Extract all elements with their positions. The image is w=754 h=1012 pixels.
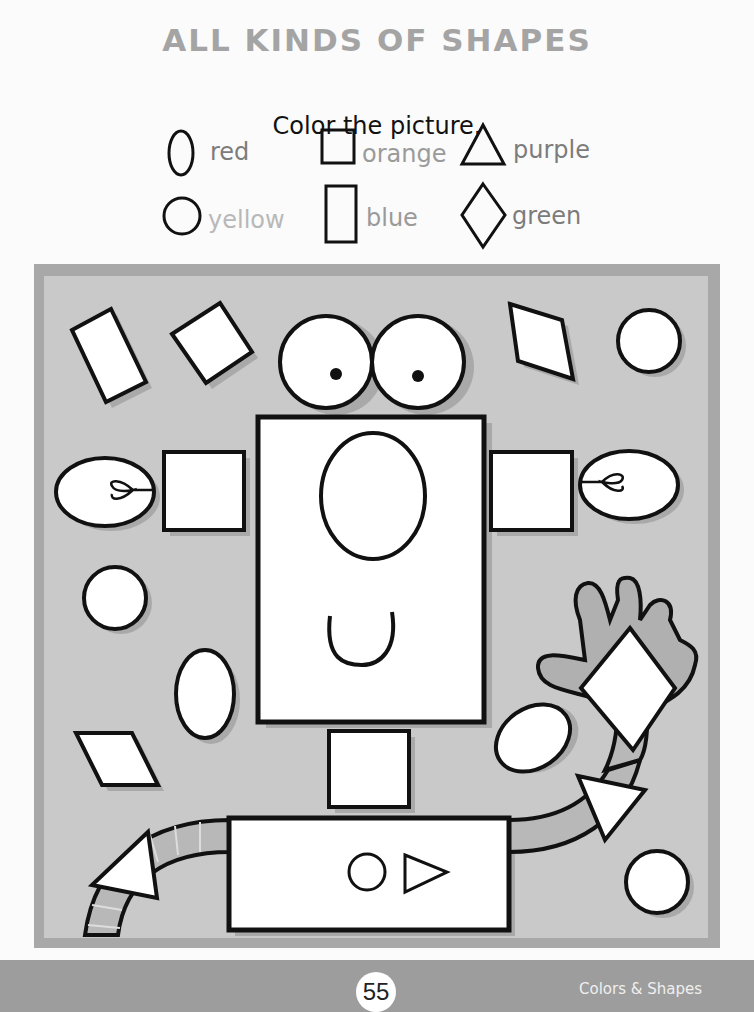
right-pupil: [412, 370, 424, 382]
left-neck-square: [164, 452, 244, 530]
right-ear-oval: [580, 451, 678, 519]
oval-left: [176, 650, 234, 738]
robot-head-rectangle: [258, 417, 484, 722]
page-number: 55: [356, 972, 396, 1012]
circle-bottom-right: [626, 851, 688, 913]
neck-square: [329, 731, 409, 807]
body-circle: [349, 854, 385, 890]
circle-left: [84, 567, 146, 629]
left-eye-circle: [280, 316, 372, 408]
section-name: Colors & Shapes: [579, 980, 702, 998]
left-pupil: [330, 368, 342, 380]
circle-top-right: [618, 310, 680, 372]
robot-picture: [0, 0, 754, 960]
right-eye-circle: [372, 316, 464, 408]
left-ear-oval: [56, 458, 154, 526]
right-neck-square: [491, 452, 572, 530]
